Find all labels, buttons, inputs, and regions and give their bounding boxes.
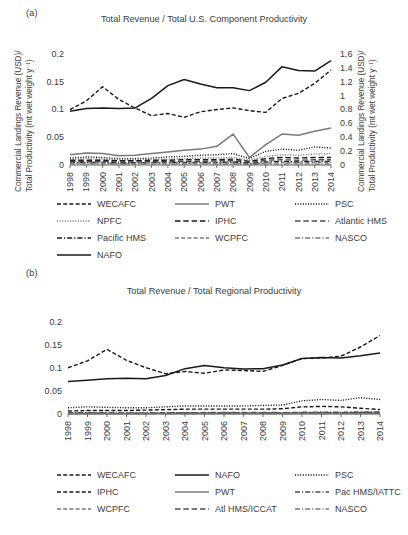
x-tick-label: 1999 [82, 172, 92, 192]
x-tick-label: 2002 [130, 172, 140, 192]
legend-item[interactable]: PSC [295, 196, 408, 211]
x-tick-label: 2011 [317, 421, 327, 440]
y2-tick-label: 1 [340, 91, 345, 101]
y-tick-label: 0 [57, 409, 62, 419]
legend-label: PWT [215, 487, 235, 497]
y-tick-label: 0.15 [46, 77, 64, 87]
legend-label: IPHC [215, 216, 237, 226]
x-tick-label: 2004 [163, 172, 173, 192]
x-tick-label: 2006 [219, 421, 229, 441]
legend-line-swatch [295, 504, 329, 514]
legend-line-swatch [57, 487, 91, 497]
x-tick-label: 2008 [228, 172, 238, 192]
x-tick-label: 2013 [310, 172, 320, 192]
y-tick-label: 0.2 [51, 49, 64, 59]
legend-item[interactable]: Atlantic HMS [295, 213, 408, 228]
legend-label: NPFC [97, 216, 122, 226]
x-tick-label: 2005 [179, 172, 189, 192]
legend-item[interactable]: Pacific HMS [57, 230, 175, 245]
legend-line-swatch [175, 216, 209, 226]
legend-line-swatch [57, 233, 91, 243]
plot-area-a: 00.050.10.150.200.20.40.60.811.21.41.619… [0, 0, 408, 200]
legend-line-swatch [175, 199, 209, 209]
legend-a: WECAFCPWTPSCNPFCIPHCAtlantic HMSPacific … [0, 196, 408, 254]
y-tick-label: 0.1 [49, 363, 62, 373]
x-tick-label: 2001 [122, 421, 132, 441]
y-tick-label: 0.1 [51, 104, 64, 114]
y2-tick-label: 1.2 [340, 77, 353, 87]
legend-item[interactable]: IPHC [175, 213, 295, 228]
y2-tick-label: 0 [340, 160, 345, 170]
legend-line-swatch [57, 470, 91, 480]
legend-item[interactable]: NAFO [57, 247, 175, 262]
legend-item[interactable]: NASCO [295, 501, 408, 516]
legend-line-swatch [57, 199, 91, 209]
legend-line-swatch [175, 504, 209, 514]
x-tick-label: 2002 [141, 421, 151, 441]
legend-label: Atlantic HMS [335, 216, 387, 226]
x-tick-label: 2012 [294, 172, 304, 192]
legend-line-swatch [295, 216, 329, 226]
legend-item[interactable]: Pac HMS/IATTC [295, 484, 408, 499]
legend-item[interactable]: PWT [175, 196, 295, 211]
legend-item[interactable]: NPFC [57, 213, 175, 228]
plot-area-b: 00.050.10.150.21998199920002001200220032… [0, 262, 408, 467]
legend-label: WCPFC [215, 233, 248, 243]
legend-label: PWT [215, 199, 235, 209]
legend-line-swatch [295, 470, 329, 480]
y2-tick-label: 1.6 [340, 49, 353, 59]
y2-tick-label: 0.2 [340, 146, 353, 156]
legend-label: Atl HMS/ICCAT [215, 504, 277, 514]
series-line [68, 353, 380, 382]
x-tick-label: 2006 [196, 172, 206, 192]
legend-label: PSC [335, 470, 354, 480]
x-tick-label: 2003 [161, 421, 171, 441]
legend-b: WECAFCNAFOPSCIPHCPWTPac HMS/IATTCWCPFCAt… [0, 467, 408, 529]
x-tick-label: 1998 [63, 421, 73, 441]
y-tick-label: 0.15 [44, 340, 62, 350]
figure-container: (a) Total Revenue / Total U.S. Component… [0, 0, 408, 535]
y2-tick-label: 0.8 [340, 104, 353, 114]
x-tick-label: 1998 [65, 172, 75, 192]
legend-line-swatch [175, 233, 209, 243]
legend-label: PSC [335, 199, 354, 209]
x-tick-label: 2003 [147, 172, 157, 192]
legend-label: NASCO [335, 233, 367, 243]
x-tick-label: 2007 [239, 421, 249, 441]
legend-item[interactable]: PSC [295, 467, 408, 482]
x-tick-label: 2014 [326, 172, 336, 192]
legend-line-swatch [57, 216, 91, 226]
x-tick-label: 2001 [114, 172, 124, 192]
y2-tick-label: 1.4 [340, 63, 353, 73]
x-tick-label: 2010 [297, 421, 307, 441]
legend-item[interactable]: WCPFC [57, 501, 175, 516]
legend-line-swatch [295, 199, 329, 209]
x-tick-label: 2011 [277, 172, 287, 191]
x-tick-label: 2004 [180, 421, 190, 441]
legend-line-swatch [295, 487, 329, 497]
legend-label: IPHC [97, 487, 119, 497]
legend-item[interactable]: NASCO [295, 230, 408, 245]
y-tick-label: 0 [59, 160, 64, 170]
x-tick-label: 2000 [98, 172, 108, 192]
legend-item[interactable]: NAFO [175, 467, 295, 482]
legend-item[interactable]: PWT [175, 484, 295, 499]
legend-label: Pac HMS/IATTC [335, 487, 401, 497]
legend-label: Pacific HMS [97, 233, 146, 243]
legend-item[interactable]: Atl HMS/ICCAT [175, 501, 295, 516]
x-tick-label: 2013 [356, 421, 366, 441]
x-tick-label: 2007 [212, 172, 222, 192]
legend-line-swatch [175, 487, 209, 497]
y2-tick-label: 0.4 [340, 132, 353, 142]
x-tick-label: 2012 [336, 421, 346, 441]
y-tick-label: 0.05 [46, 132, 64, 142]
legend-item[interactable]: IPHC [57, 484, 175, 499]
legend-line-swatch [57, 504, 91, 514]
legend-item[interactable]: WECAFC [57, 196, 175, 211]
legend-label: NASCO [335, 504, 367, 514]
series-line [70, 70, 331, 117]
legend-item[interactable]: WECAFC [57, 467, 175, 482]
legend-item[interactable]: WCPFC [175, 230, 295, 245]
legend-label: WECAFC [97, 470, 136, 480]
y-tick-label: 0.05 [44, 386, 62, 396]
